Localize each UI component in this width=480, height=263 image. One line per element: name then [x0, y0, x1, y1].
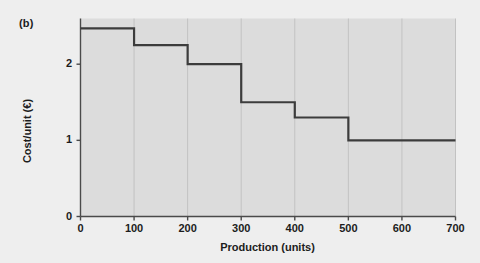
y-axis-title: Cost/unit (€)	[21, 71, 33, 191]
x-tick-label-0: 0	[61, 222, 101, 234]
x-tick-label-500: 500	[328, 222, 368, 234]
x-tick-label-700: 700	[436, 222, 476, 234]
x-tick-label-400: 400	[275, 222, 315, 234]
x-tick-label-100: 100	[114, 222, 154, 234]
y-tick-label-0: 0	[1, 210, 73, 222]
plot-background-group	[81, 19, 456, 217]
x-axis-title: Production (units)	[80, 241, 455, 253]
x-axis-tick-labels: 0100200300400500600700	[0, 222, 480, 242]
x-tick-label-200: 200	[168, 222, 208, 234]
x-tick-label-600: 600	[382, 222, 422, 234]
plot-area-background	[81, 19, 456, 217]
y-tick-label-2: 2	[1, 57, 73, 69]
figure-panel-b: (b) 012 0100200300400500600700 Cost/unit…	[0, 0, 480, 263]
x-tick-label-300: 300	[221, 222, 261, 234]
y-tick-label-1: 1	[1, 133, 73, 145]
